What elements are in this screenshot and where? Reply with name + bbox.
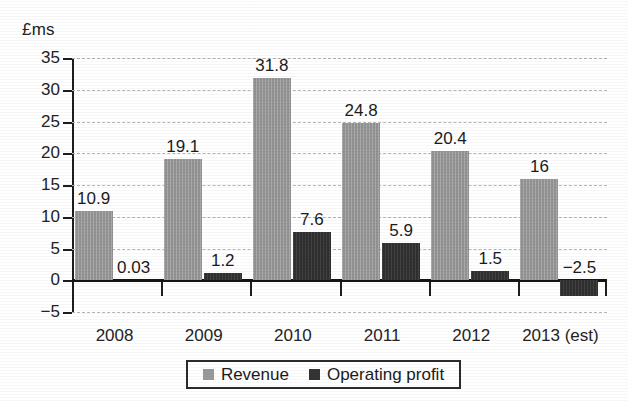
bar-operating-profit-2010 [293, 232, 331, 280]
y-axis-tick [63, 185, 72, 187]
y-axis-label: −5 [14, 302, 60, 322]
bar-value-label: −2.5 [563, 258, 597, 278]
y-axis-label: 35 [14, 48, 60, 68]
y-axis-label: 0 [14, 270, 60, 290]
x-axis-label-2009: 2009 [185, 326, 223, 346]
x-axis-label-2011: 2011 [364, 326, 401, 346]
bar-value-label: 24.8 [345, 101, 378, 121]
y-axis-tick [63, 122, 72, 124]
bar-value-label: 10.9 [77, 189, 110, 209]
chart-legend: Revenue Operating profit [186, 360, 461, 389]
bar-value-label: 7.6 [300, 210, 324, 230]
y-axis-tick [63, 153, 72, 155]
y-axis-label: 30 [14, 80, 60, 100]
bar-revenue-2011 [342, 123, 380, 280]
x-axis-label-2010: 2010 [274, 326, 312, 346]
x-axis-tick [429, 282, 431, 296]
x-axis-tick [250, 282, 252, 296]
gridline [72, 122, 607, 123]
bar-revenue-2010 [253, 78, 291, 280]
bar-operating-profit-2012 [471, 271, 509, 281]
revenue-swatch-icon [203, 369, 214, 380]
legend-label-revenue: Revenue [221, 365, 289, 385]
bar-revenue-2012 [431, 151, 469, 281]
y-axis-label: 10 [14, 207, 60, 227]
legend-item-operating-profit[interactable]: Operating profit [309, 365, 444, 385]
bar-value-label: 16 [530, 157, 549, 177]
bar-value-label: 5.9 [389, 221, 413, 241]
bar-value-label: 20.4 [434, 129, 467, 149]
y-axis-tick [63, 312, 72, 314]
gridline [72, 153, 607, 154]
x-axis-label-2012: 2012 [452, 326, 490, 346]
x-axis-tick [340, 282, 342, 296]
bar-value-label: 31.8 [255, 56, 288, 76]
y-axis-label: 25 [14, 112, 60, 132]
legend-label-operating-profit: Operating profit [327, 365, 444, 385]
plot-area [72, 58, 607, 312]
x-axis-label-2013-est-: 2013 (est) [522, 326, 599, 346]
y-axis-tick [63, 249, 72, 251]
bar-revenue-2008 [75, 211, 113, 280]
bar-operating-profit-2011 [382, 243, 420, 280]
bar-value-label: 0.03 [117, 258, 150, 278]
gridline [72, 90, 607, 91]
y-axis-tick [63, 90, 72, 92]
bar-revenue-2013-est- [520, 179, 558, 281]
x-axis-label-2008: 2008 [96, 326, 134, 346]
y-axis-tick [63, 58, 72, 60]
y-axis-tick [63, 280, 72, 282]
bar-revenue-2009 [164, 159, 202, 280]
y-axis-label: 5 [14, 239, 60, 259]
operating-profit-swatch-icon [309, 369, 320, 380]
bar-value-label: 19.1 [166, 137, 199, 157]
legend-item-revenue[interactable]: Revenue [203, 365, 289, 385]
bar-value-label: 1.2 [211, 251, 235, 271]
gridline [72, 58, 607, 59]
y-axis-tick [63, 217, 72, 219]
gridline [72, 312, 607, 313]
bar-operating-profit-2009 [204, 273, 242, 281]
x-axis-tick [518, 282, 520, 296]
y-axis-label: 20 [14, 143, 60, 163]
bar-chart: £ms Revenue Operating profit 35302520151… [0, 0, 628, 401]
y-axis-label: 15 [14, 175, 60, 195]
bar-value-label: 1.5 [478, 249, 502, 269]
x-axis-tick-end [605, 282, 607, 296]
y-axis-title: £ms [22, 20, 55, 40]
bar-operating-profit-2013-est- [560, 280, 598, 296]
x-axis-tick [161, 282, 163, 296]
